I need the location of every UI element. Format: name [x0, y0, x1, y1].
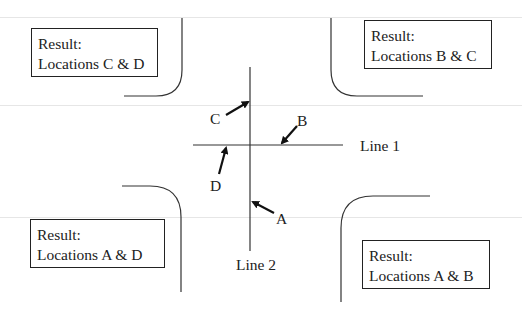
result-box-top-left-title: Result:: [38, 34, 157, 54]
point-label-b: B: [297, 113, 307, 129]
result-box-bottom-right-locations: Locations A & B: [369, 266, 489, 286]
result-box-bottom-left: Result: Locations A & D: [30, 219, 165, 268]
arrow-d: [219, 148, 226, 174]
result-box-bottom-left-title: Result:: [37, 225, 164, 245]
point-label-d: D: [210, 178, 221, 194]
arrow-a: [253, 202, 274, 213]
result-box-top-left-locations: Locations C & D: [38, 54, 157, 74]
arrow-c: [226, 102, 248, 115]
line-2-label: Line 2: [236, 257, 276, 273]
result-box-top-right-locations: Locations B & C: [371, 46, 491, 66]
point-label-c: C: [210, 111, 220, 127]
arrow-b: [282, 126, 297, 143]
line-1-label: Line 1: [360, 138, 400, 154]
result-box-bottom-left-locations: Locations A & D: [37, 245, 164, 265]
result-box-top-left: Result: Locations C & D: [31, 28, 158, 77]
result-box-bottom-right: Result: Locations A & B: [362, 240, 490, 289]
result-box-top-right-title: Result:: [371, 26, 491, 46]
result-box-bottom-right-title: Result:: [369, 246, 489, 266]
point-label-a: A: [276, 211, 287, 227]
result-box-top-right: Result: Locations B & C: [364, 20, 492, 69]
